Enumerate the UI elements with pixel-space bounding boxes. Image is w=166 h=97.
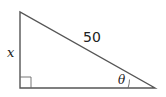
angle-arc [128, 80, 130, 89]
right-triangle [20, 12, 155, 88]
hypotenuse-label: 50 [83, 29, 101, 45]
right-angle-marker [20, 77, 31, 88]
side-x-label: x [7, 45, 15, 60]
triangle-diagram: 50 x θ [0, 0, 166, 97]
angle-theta-label: θ [118, 73, 126, 87]
